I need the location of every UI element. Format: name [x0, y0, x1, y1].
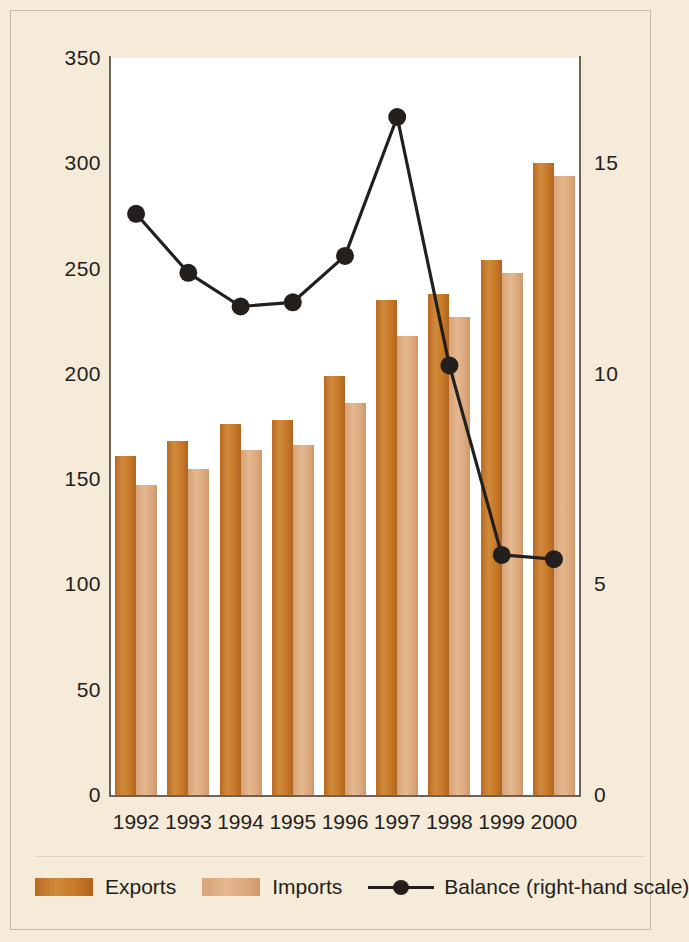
legend-label-exports: Exports	[105, 875, 176, 899]
chart-legend: Exports Imports Balance (right-hand scal…	[35, 868, 645, 906]
x-axis-label-1994: 1994	[211, 811, 271, 832]
right-axis-tick-0: 0	[594, 784, 654, 805]
x-axis-label-2000: 2000	[524, 811, 584, 832]
exports-swatch-icon	[35, 878, 93, 896]
left-axis-tick-150: 150	[39, 468, 101, 489]
x-axis-label-1993: 1993	[158, 811, 218, 832]
left-axis-tick-50: 50	[39, 679, 101, 700]
x-axis-label-1999: 1999	[472, 811, 532, 832]
right-axis-line	[579, 56, 581, 797]
bar-exports-1996	[324, 376, 345, 795]
x-axis-label-1997: 1997	[367, 811, 427, 832]
bar-exports-1995	[272, 420, 293, 795]
bar-exports-1999	[481, 260, 502, 795]
balance-line-marker-icon	[368, 878, 434, 896]
legend-label-balance: Balance (right-hand scale)	[444, 875, 689, 899]
legend-label-imports: Imports	[272, 875, 342, 899]
x-axis-label-1992: 1992	[106, 811, 166, 832]
bar-imports-1999	[502, 273, 523, 795]
x-axis-label-1998: 1998	[419, 811, 479, 832]
left-axis-tick-250: 250	[39, 258, 101, 279]
bar-exports-2000	[533, 163, 554, 795]
bar-imports-1993	[188, 469, 209, 795]
bar-exports-1998	[428, 294, 449, 795]
x-axis-label-1995: 1995	[263, 811, 323, 832]
right-axis-tick-5: 5	[594, 573, 654, 594]
left-axis-tick-200: 200	[39, 363, 101, 384]
left-axis-tick-0: 0	[39, 784, 101, 805]
bar-imports-1994	[241, 450, 262, 795]
left-axis-tick-300: 300	[39, 152, 101, 173]
legend-entry-balance: Balance (right-hand scale)	[368, 875, 689, 899]
bar-imports-1998	[449, 317, 470, 795]
bar-imports-1996	[345, 403, 366, 795]
bar-exports-1993	[167, 441, 188, 795]
bottom-axis-line	[109, 795, 581, 797]
legend-divider	[35, 856, 645, 857]
right-axis-tick-10: 10	[594, 363, 654, 384]
left-axis-tick-350: 350	[39, 47, 101, 68]
chart-figure-frame: 350300250200150100500 151050 19921993199…	[10, 10, 651, 930]
balance-point-dot	[393, 880, 409, 895]
bar-imports-1997	[397, 336, 418, 795]
bar-exports-1997	[376, 300, 397, 795]
bar-imports-2000	[554, 176, 575, 795]
x-axis-label-1996: 1996	[315, 811, 375, 832]
right-axis-tick-15: 15	[594, 152, 654, 173]
legend-entry-imports: Imports	[202, 875, 342, 899]
bar-exports-1994	[220, 424, 241, 795]
bar-exports-1992	[115, 456, 136, 795]
left-axis-tick-100: 100	[39, 573, 101, 594]
left-axis-line	[109, 56, 111, 797]
bar-imports-1992	[136, 485, 157, 795]
bar-imports-1995	[293, 445, 314, 795]
legend-entry-exports: Exports	[35, 875, 176, 899]
imports-swatch-icon	[202, 878, 260, 896]
